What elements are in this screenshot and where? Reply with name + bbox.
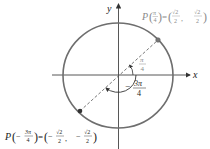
svg-text:√2: √2 bbox=[172, 9, 178, 15]
svg-text:): ) bbox=[93, 130, 97, 144]
angle-arc-pi-over-4 bbox=[130, 65, 134, 75]
y-axis-label: y bbox=[106, 3, 112, 14]
svg-text:√2: √2 bbox=[84, 129, 90, 135]
svg-text:): ) bbox=[203, 10, 207, 24]
svg-text:4: 4 bbox=[154, 17, 157, 23]
svg-text:,: , bbox=[181, 14, 183, 23]
svg-text:−: − bbox=[76, 132, 81, 141]
svg-text:2: 2 bbox=[58, 138, 61, 144]
angle-label-minus-3pi-over-4: − 3π 4 bbox=[125, 79, 146, 98]
angle-label-pi-over-4: π 4 bbox=[139, 56, 146, 73]
svg-text:2: 2 bbox=[196, 18, 199, 24]
svg-text:=: = bbox=[38, 132, 43, 142]
svg-text:P: P bbox=[141, 11, 148, 22]
svg-text:3π: 3π bbox=[24, 129, 32, 135]
point-label-minus-3pi-over-4: P ( − 3π 4 ) = ( − √2 2 , − √2 2 ) bbox=[4, 129, 97, 144]
svg-text:=: = bbox=[162, 12, 167, 22]
dashed-radius-line bbox=[80, 40, 158, 111]
svg-text:2: 2 bbox=[174, 18, 177, 24]
x-axis-label: x bbox=[192, 69, 198, 80]
svg-text:4: 4 bbox=[137, 89, 141, 98]
svg-text:π: π bbox=[153, 10, 157, 16]
svg-text:2: 2 bbox=[86, 138, 89, 144]
point-label-pi-over-4: P ( π 4 ) = ( √2 2 , √2 2 ) bbox=[141, 9, 207, 24]
svg-text:−: − bbox=[125, 81, 130, 91]
svg-text:,: , bbox=[65, 134, 67, 143]
svg-text:P: P bbox=[4, 131, 11, 142]
unit-circle-diagram: x y π 4 − 3π 4 P ( π 4 ) = ( √2 2 , √2 2… bbox=[0, 0, 210, 149]
svg-text:−: − bbox=[48, 132, 53, 141]
point-minus-3pi-over-4 bbox=[78, 109, 83, 114]
svg-text:3π: 3π bbox=[133, 79, 143, 88]
svg-text:−: − bbox=[16, 132, 21, 141]
svg-text:√2: √2 bbox=[194, 9, 200, 15]
svg-text:π: π bbox=[140, 56, 144, 64]
svg-text:4: 4 bbox=[141, 65, 145, 73]
svg-text:4: 4 bbox=[27, 137, 30, 143]
point-pi-over-4 bbox=[156, 38, 161, 43]
svg-text:√2: √2 bbox=[56, 129, 62, 135]
